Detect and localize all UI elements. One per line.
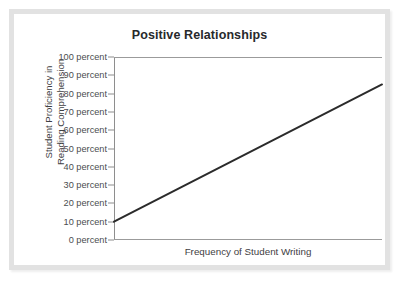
- y-tick-label: 50 percent: [64, 144, 107, 154]
- figure-frame: Positive Relationships Student Proficien…: [9, 9, 390, 270]
- y-tick-label: 100 percent: [58, 52, 107, 62]
- y-tick-label: 30 percent: [64, 180, 107, 190]
- y-tick-label: 20 percent: [64, 198, 107, 208]
- figure-canvas: Positive Relationships Student Proficien…: [14, 14, 385, 265]
- trend-line-series: [114, 84, 382, 221]
- y-tick-label: 80 percent: [64, 89, 107, 99]
- y-axis-title: Student Proficiency in Reading Comprehen…: [26, 64, 52, 204]
- y-tick-label: 40 percent: [64, 162, 107, 172]
- trend-line-chart: [114, 57, 382, 240]
- y-axis-title-line-1: Student Proficiency in: [43, 29, 55, 195]
- y-tick-label: 10 percent: [64, 217, 107, 227]
- plot-area: 100 percent90 percent80 percent70 percen…: [114, 57, 382, 240]
- y-tick-label: 60 percent: [64, 125, 107, 135]
- y-tick-label: 70 percent: [64, 107, 107, 117]
- x-axis-title: Frequency of Student Writing: [114, 246, 382, 257]
- y-tick-label: 90 percent: [64, 70, 107, 80]
- y-tick-label: 0 percent: [69, 235, 107, 245]
- chart-title: Positive Relationships: [14, 28, 385, 42]
